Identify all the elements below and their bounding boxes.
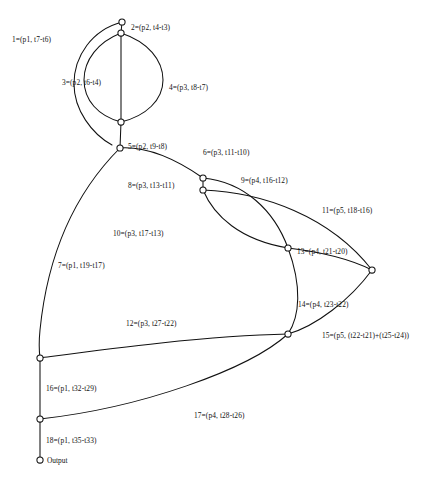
- edge-17: [40, 334, 288, 419]
- edge-5-label: 5=(p2, t9-t8): [128, 143, 167, 150]
- node-top: [119, 19, 125, 25]
- edge-14-label: 14=(p4, t23-t22): [298, 301, 349, 308]
- node-center-upper: [200, 175, 206, 181]
- edge-6: [120, 148, 203, 178]
- node-left-bottom: [37, 416, 43, 422]
- edge-4-label: 4=(p3, t8-t7): [169, 84, 208, 91]
- edge-15-label: 15=(p5, (t22-t21)+(t25-t24)): [322, 332, 409, 339]
- edge-11-label: 11=(p5, t18-t16): [322, 207, 372, 214]
- edge-8-label: 8=(p3, t13-t11): [128, 182, 174, 189]
- node-far-right: [369, 267, 375, 273]
- node-output-label: Output: [47, 457, 68, 464]
- edge-3-label: 3=(p2, t6-t4): [62, 79, 101, 86]
- edge-16-label: 16=(p1, t32-t29): [46, 385, 97, 392]
- node-mid-upper: [118, 119, 124, 125]
- edge-6-label: 6=(p3, t11-t10): [203, 149, 249, 156]
- node-right-mid: [285, 245, 291, 251]
- node-center-lower: [200, 187, 206, 193]
- edge-10-label: 10=(p3, t17-t13): [113, 230, 164, 237]
- edge-10: [203, 190, 288, 248]
- edge-2-label: 2=(p2, t4-t3): [131, 24, 170, 31]
- node-mid: [117, 145, 123, 151]
- edge-7-label: 7=(p1, t19-t17): [58, 262, 105, 269]
- edge-1-label: 1=(p1, t7-t6): [12, 36, 51, 43]
- edge-12-label: 12=(p3, t27-t22): [126, 320, 177, 327]
- edge-9-label: 9=(p4, t16-t12): [241, 177, 288, 184]
- edge-9: [203, 178, 288, 248]
- node-upper: [118, 30, 124, 36]
- timed-event-graph-figure: 1=(p1, t7-t6)2=(p2, t4-t3)3=(p2, t6-t4)4…: [0, 0, 448, 486]
- edge-14: [288, 248, 298, 334]
- edge-17-label: 17=(p4, t28-t26): [194, 412, 245, 419]
- edge-7: [39, 148, 120, 358]
- edge-11: [203, 190, 372, 270]
- edge-12: [40, 334, 288, 358]
- node-left-lower: [37, 355, 43, 361]
- node-right-lower: [285, 331, 291, 337]
- edge-18-label: 18=(p1, t35-t33): [46, 437, 97, 444]
- edge-13-label: 13=(p4, t21-t20): [297, 248, 348, 255]
- node-output: [37, 457, 43, 463]
- edge-4: [121, 33, 163, 122]
- edge-5: [120, 33, 121, 148]
